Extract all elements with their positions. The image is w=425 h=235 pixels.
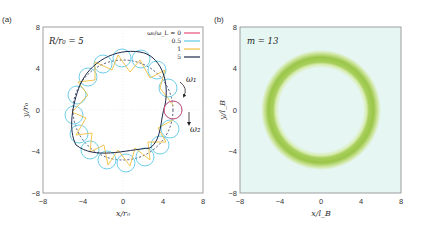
- svg-text:4: 4: [233, 64, 237, 73]
- legend-item-1: 1: [177, 45, 181, 52]
- svg-text:8: 8: [399, 197, 403, 206]
- svg-text:8: 8: [36, 23, 40, 32]
- svg-text:−8: −8: [39, 197, 48, 206]
- ylabel-a: y/r₀: [21, 102, 30, 118]
- omega2-label: ω₂: [190, 124, 201, 134]
- panel-a-label: (a): [2, 15, 12, 24]
- density-heatmap: [240, 27, 401, 193]
- annotation-a: R/r₀ = 5: [48, 36, 84, 46]
- svg-text:0: 0: [36, 106, 40, 115]
- svg-text:0: 0: [121, 197, 125, 206]
- svg-text:0: 0: [233, 106, 237, 115]
- x-ticks-b: −8 −4 0 4 8: [236, 197, 403, 206]
- svg-text:−4: −4: [79, 197, 88, 206]
- svg-text:−8: −8: [236, 197, 245, 206]
- x-ticks-a: −8 −4 0 4 8: [39, 197, 205, 206]
- svg-text:4: 4: [161, 197, 165, 206]
- svg-text:4: 4: [36, 64, 40, 73]
- xlabel-b: x/l_B: [311, 209, 331, 218]
- figure: (a) ω₁ ω₂: [0, 0, 425, 235]
- legend-item-5: 5: [177, 53, 181, 60]
- svg-text:−4: −4: [228, 147, 237, 156]
- legend-title: ω₀/ω_L = 0: [147, 29, 181, 37]
- panel-a: (a) ω₁ ω₂: [2, 15, 205, 218]
- ylabel-b: y/l_B: [218, 100, 227, 121]
- svg-text:−4: −4: [31, 147, 40, 156]
- y-ticks-b: 8 4 0 −4 −8: [228, 23, 237, 198]
- omega1-label: ω₁: [186, 74, 196, 84]
- legend-item-0.5: 0.5: [171, 37, 181, 44]
- svg-text:−4: −4: [276, 197, 285, 206]
- svg-text:0: 0: [319, 197, 323, 206]
- svg-text:4: 4: [359, 197, 363, 206]
- panel-b: (b) m = 13 8 4 0 −4 −8 −8 −4 0 4 8 x/l_B…: [214, 15, 403, 218]
- xlabel-a: x/r₀: [116, 209, 131, 218]
- svg-text:8: 8: [201, 197, 205, 206]
- panel-b-label: (b): [214, 15, 224, 24]
- annotation-b: m = 13: [247, 36, 278, 46]
- svg-text:8: 8: [233, 23, 237, 32]
- y-ticks-a: 8 4 0 −4 −8: [31, 23, 40, 198]
